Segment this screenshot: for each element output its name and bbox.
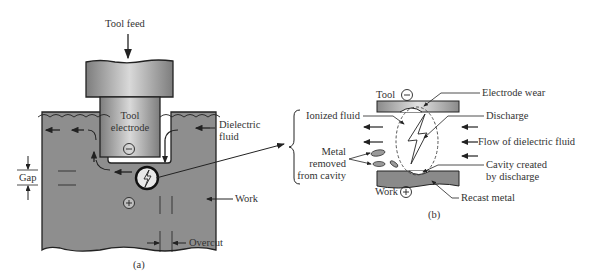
spark-zone: [136, 167, 158, 189]
label-flow-of-dielectric-fluid: Flow of dielectric fluid: [478, 136, 575, 148]
label-gap: Gap: [19, 172, 37, 184]
label-recast-metal: Recast metal: [461, 192, 515, 204]
label-overcut: Overcut: [189, 237, 223, 249]
label-tool-electrode-line2: electrode: [108, 122, 152, 134]
label-cavity-line2: by discharge: [486, 171, 547, 183]
label-dielectric-fluid: Dielectric fluid: [219, 119, 260, 143]
label-tool-feed: Tool feed: [105, 18, 145, 30]
label-tool-electrode-line1: Tool: [108, 110, 152, 122]
caption-b: (b): [428, 209, 440, 221]
label-electrode-wear: Electrode wear: [482, 87, 545, 99]
figure-a: [17, 34, 284, 252]
label-tool-electrode: Tool electrode: [108, 110, 152, 134]
label-dielectric-line2: fluid: [219, 131, 260, 143]
label-metal-removed-line3: from cavity: [296, 170, 346, 182]
label-metal-removed: Metal removed from cavity: [296, 146, 346, 182]
label-tool-b: Tool: [376, 89, 395, 101]
label-work-b: Work: [375, 186, 398, 198]
label-discharge: Discharge: [486, 110, 528, 122]
label-ionized-fluid: Ionized fluid: [306, 110, 360, 122]
label-work-a: Work: [235, 193, 258, 205]
label-cavity: Cavity created by discharge: [486, 159, 547, 183]
label-metal-removed-line1: Metal: [296, 146, 346, 158]
discharge-bolt-icon: [408, 114, 427, 164]
caption-a: (a): [133, 259, 145, 271]
tool-holder: [86, 60, 173, 97]
label-dielectric-line1: Dielectric: [219, 119, 260, 131]
label-cavity-line1: Cavity created: [486, 159, 547, 171]
label-metal-removed-line2: removed: [296, 158, 346, 170]
